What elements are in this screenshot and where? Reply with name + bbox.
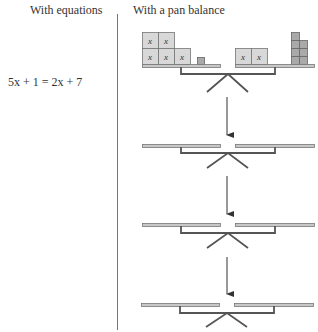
balance-step-2: [143, 145, 315, 169]
svg-text:x: x: [179, 52, 184, 62]
svg-text:x: x: [256, 52, 261, 62]
left-unit-block: [198, 58, 205, 65]
balance-step-3: [143, 224, 315, 249]
balance-initial: x x x x x x x: [143, 33, 315, 93]
svg-text:x: x: [163, 52, 168, 62]
svg-text:x: x: [163, 36, 168, 46]
right-unit-blocks: [292, 33, 308, 65]
fulcrum: [207, 74, 248, 92]
pan-balance-diagram: x x x x x x x: [0, 0, 318, 332]
svg-text:x: x: [147, 52, 152, 62]
svg-text:x: x: [147, 36, 152, 46]
svg-text:x: x: [240, 52, 245, 62]
balance-step-4: [142, 304, 314, 328]
